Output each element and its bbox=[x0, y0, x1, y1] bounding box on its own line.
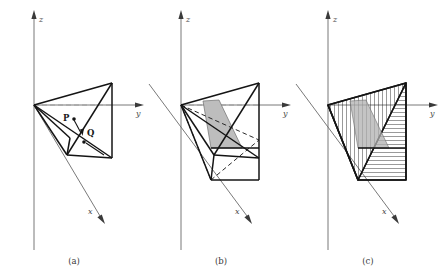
axis-y-label: y bbox=[135, 109, 141, 118]
panel-b: z y x (b) bbox=[147, 0, 295, 272]
axis-z-label: z bbox=[38, 15, 44, 24]
caption-c: (c) bbox=[294, 256, 442, 266]
figure-container: P Q z y x (a) bbox=[0, 0, 443, 272]
point-Q-label: Q bbox=[87, 128, 95, 138]
axis-z bbox=[31, 10, 36, 250]
caption-a: (a) bbox=[0, 256, 148, 266]
axis-x-label: x bbox=[382, 207, 387, 216]
caption-b: (b) bbox=[147, 256, 295, 266]
axis-z-label: z bbox=[332, 15, 338, 24]
point-Q bbox=[82, 140, 104, 155]
axis-y-label: y bbox=[282, 109, 288, 118]
panel-c: z y x (c) bbox=[294, 0, 442, 272]
solid-outline-b bbox=[181, 83, 259, 180]
point-P bbox=[72, 117, 84, 136]
solid-outline-a bbox=[34, 83, 112, 158]
axis-x-label: x bbox=[235, 207, 240, 216]
axis-z-label: z bbox=[185, 15, 191, 24]
panel-a: P Q z y x (a) bbox=[0, 0, 148, 272]
axis-y-label: y bbox=[429, 109, 435, 118]
axis-x-label: x bbox=[88, 207, 93, 216]
point-P-label: P bbox=[63, 113, 70, 123]
axis-x bbox=[34, 105, 105, 224]
